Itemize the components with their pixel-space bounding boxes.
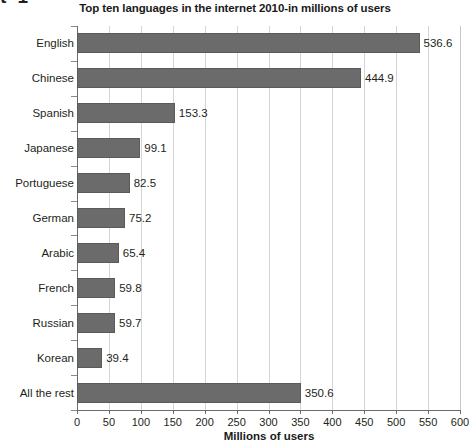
y-axis-category-label: Russian	[0, 313, 74, 333]
y-tick-mark	[71, 235, 77, 236]
bar	[77, 173, 130, 193]
bar	[77, 383, 301, 403]
y-axis-category-label: Arabic	[0, 243, 74, 263]
chart-title: Top ten languages in the internet 2010-i…	[0, 2, 470, 14]
y-axis-category-label: Spanish	[0, 103, 74, 123]
bar-value-label: 444.9	[365, 68, 394, 88]
x-tick-mark	[460, 410, 461, 414]
y-tick-mark	[71, 61, 77, 62]
y-axis-category-label: Korean	[0, 348, 74, 368]
y-axis-category-label: German	[0, 208, 74, 228]
bar-value-label: 65.4	[123, 243, 145, 263]
bar	[77, 243, 119, 263]
bar	[77, 33, 420, 53]
y-tick-mark	[71, 201, 77, 202]
bar-value-label: 82.5	[134, 173, 156, 193]
bar	[77, 278, 115, 298]
bar	[77, 138, 140, 158]
bar-value-label: 99.1	[144, 138, 166, 158]
x-tick-mark	[364, 410, 365, 414]
y-tick-mark	[71, 96, 77, 97]
y-axis-category-label: English	[0, 33, 74, 53]
x-tick-mark	[396, 410, 397, 414]
x-tick-mark	[109, 410, 110, 414]
bar-chart: Top ten languages in the internet 2010-i…	[0, 0, 470, 446]
y-tick-mark	[71, 166, 77, 167]
y-axis-category-label: Chinese	[0, 68, 74, 88]
y-tick-mark	[71, 131, 77, 132]
y-tick-mark	[71, 270, 77, 271]
x-tick-label: 600	[440, 416, 470, 428]
y-axis-category-label: French	[0, 278, 74, 298]
bar	[77, 208, 125, 228]
x-tick-mark	[428, 410, 429, 414]
y-tick-mark	[71, 375, 77, 376]
y-axis-category-label: Portuguese	[0, 173, 74, 193]
bar-value-label: 39.4	[106, 348, 128, 368]
bar	[77, 348, 102, 368]
x-tick-mark	[237, 410, 238, 414]
gridline-550	[428, 26, 429, 410]
bar-value-label: 59.8	[119, 278, 141, 298]
x-tick-mark	[141, 410, 142, 414]
x-tick-mark	[300, 410, 301, 414]
bar-value-label: 59.7	[119, 313, 141, 333]
bar	[77, 313, 115, 333]
gridline-500	[396, 26, 397, 410]
gridline-600	[460, 26, 461, 410]
y-axis-category-label: All the rest	[0, 383, 74, 403]
bar	[77, 68, 361, 88]
bar-value-label: 536.6	[424, 33, 453, 53]
y-axis-end-tick	[71, 410, 77, 411]
y-axis-end-tick	[71, 26, 77, 27]
x-tick-mark	[269, 410, 270, 414]
y-tick-mark	[71, 340, 77, 341]
x-tick-mark	[77, 410, 78, 414]
x-tick-mark	[205, 410, 206, 414]
bar-value-label: 75.2	[129, 208, 151, 228]
y-axis-category-label: Japanese	[0, 138, 74, 158]
x-tick-mark	[332, 410, 333, 414]
bar-value-label: 350.6	[305, 383, 334, 403]
bar-value-label: 153.3	[179, 103, 208, 123]
x-tick-mark	[173, 410, 174, 414]
bar	[77, 103, 175, 123]
x-axis-title: Millions of users	[77, 430, 461, 442]
y-tick-mark	[71, 305, 77, 306]
